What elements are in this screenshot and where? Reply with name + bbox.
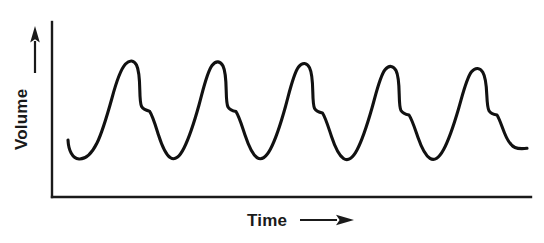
figure-container: Volume Time [0, 0, 544, 243]
y-axis-label-group: Volume [12, 26, 40, 150]
x-axis-label-group: Time [247, 211, 354, 230]
x-axis-title: Time [247, 211, 287, 230]
up-arrow-icon [30, 26, 40, 73]
y-axis-title: Volume [12, 89, 31, 150]
right-arrow-icon [300, 215, 354, 225]
waveform-trace [68, 61, 527, 160]
waveform-chart: Volume Time [0, 0, 544, 243]
